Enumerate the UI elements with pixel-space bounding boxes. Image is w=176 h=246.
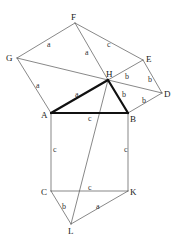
edge-label-hb: b xyxy=(122,90,126,99)
edge-ah xyxy=(51,80,108,113)
edge-label-ah: a xyxy=(75,90,79,99)
edge-label-fe: c xyxy=(107,40,111,49)
edge-label-ab: c xyxy=(88,114,92,123)
vertex-label-d: D xyxy=(164,89,171,99)
edges-layer xyxy=(17,23,162,224)
edge-fh xyxy=(75,23,108,80)
edge-labels-layer: acaabbbcccbaabc xyxy=(36,40,152,211)
edge-ed xyxy=(143,60,162,93)
vertex-label-g: G xyxy=(6,53,13,63)
edge-label-fg: a xyxy=(47,40,51,49)
edge-hl xyxy=(71,80,108,224)
edge-label-kl: a xyxy=(96,202,100,211)
vertex-label-f: F xyxy=(71,12,76,22)
edge-label-he: b xyxy=(125,72,129,81)
edge-fg xyxy=(17,23,75,58)
edge-label-bd: b xyxy=(142,96,146,105)
vertex-label-e: E xyxy=(146,54,152,64)
vertex-labels-layer: FGEHDABCKL xyxy=(6,12,171,236)
edge-label-ga: a xyxy=(36,81,40,90)
edge-ga xyxy=(17,58,51,113)
vertex-label-a: A xyxy=(41,110,48,120)
vertex-label-b: B xyxy=(130,114,136,124)
edge-label-ck: c xyxy=(88,183,92,192)
edge-label-ac: c xyxy=(53,145,57,154)
edge-label-cl: b xyxy=(62,202,66,211)
vertex-label-h: H xyxy=(106,69,113,79)
pythagorean-diagram: acaabbbcccbaabc FGEHDABCKL xyxy=(0,0,176,246)
vertex-label-k: K xyxy=(130,187,137,197)
edge-label-fh: a xyxy=(85,48,89,57)
edge-label-ed: b xyxy=(148,75,152,84)
vertex-label-l: L xyxy=(68,226,74,236)
edge-cl xyxy=(51,191,71,224)
edge-label-bk: c xyxy=(124,145,128,154)
vertex-label-c: C xyxy=(41,187,47,197)
